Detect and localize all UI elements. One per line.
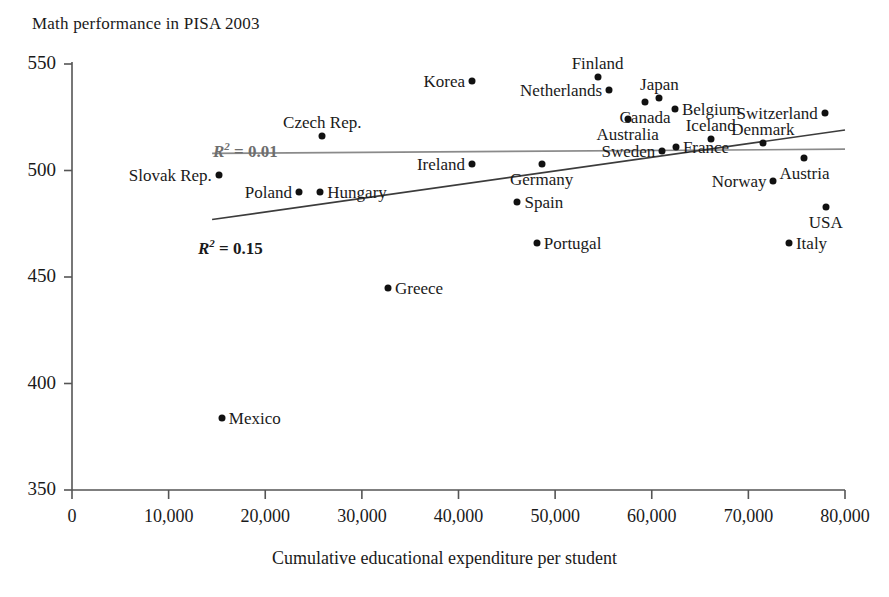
x-axis-tick-label: 10,000 xyxy=(144,506,194,527)
data-point xyxy=(469,161,476,168)
data-point-label: Iceland xyxy=(686,116,736,133)
y-axis-tick-label: 550 xyxy=(0,52,56,74)
data-point xyxy=(656,95,663,102)
data-point xyxy=(218,414,225,421)
data-point xyxy=(384,284,391,291)
x-axis-tick-label: 40,000 xyxy=(434,506,484,527)
r2-upper: R2 = 0.01 xyxy=(213,141,278,160)
data-point-label: USA xyxy=(809,213,843,230)
data-point xyxy=(469,78,476,85)
data-point-label: Italy xyxy=(796,234,827,251)
data-point xyxy=(215,171,222,178)
data-point-label: Austria xyxy=(779,164,829,181)
data-point xyxy=(514,199,521,206)
x-axis-tick-label: 30,000 xyxy=(337,506,387,527)
data-point-label: Japan xyxy=(640,76,679,93)
x-axis-tick-label: 0 xyxy=(68,506,77,527)
data-point-label: Spain xyxy=(524,194,563,211)
r2-lower: R2 = 0.15 xyxy=(198,238,263,257)
data-point-label: Ireland xyxy=(417,156,465,173)
data-point-label: Korea xyxy=(423,73,465,90)
data-point-label: Germany xyxy=(510,171,573,188)
chart-page: Math performance in PISA 2003 3504004505… xyxy=(0,0,889,597)
data-point xyxy=(821,109,828,116)
data-point-label: Poland xyxy=(245,183,292,200)
y-axis-tick-label: 500 xyxy=(0,159,56,181)
data-point xyxy=(759,139,766,146)
r2-lower-value: = 0.15 xyxy=(215,239,263,258)
data-point-label: Denmark xyxy=(731,120,794,137)
data-point-label: Norway xyxy=(712,173,767,190)
data-point xyxy=(671,105,678,112)
data-point xyxy=(538,161,545,168)
data-point-label: Sweden xyxy=(602,143,656,160)
data-point xyxy=(785,239,792,246)
x-axis-tick-label: 50,000 xyxy=(530,506,580,527)
x-axis-title: Cumulative educational expenditure per s… xyxy=(0,548,889,569)
plot-area: 350400450500550 010,00020,00030,00040,00… xyxy=(0,0,889,597)
data-point-label: Netherlands xyxy=(520,81,602,98)
data-point xyxy=(296,188,303,195)
data-point-label: Mexico xyxy=(229,409,281,426)
data-point-label: Hungary xyxy=(327,183,386,200)
data-point-label: Switzerland xyxy=(737,104,818,121)
x-axis-tick-label: 80,000 xyxy=(820,506,870,527)
data-point-label: Slovak Rep. xyxy=(129,166,212,183)
x-axis-tick-label: 60,000 xyxy=(627,506,677,527)
data-point-label: Greece xyxy=(395,279,443,296)
x-axis-tick-label: 20,000 xyxy=(241,506,291,527)
data-point-label: Czech Rep. xyxy=(283,114,361,131)
data-point-label: Australia xyxy=(596,126,658,143)
data-point xyxy=(659,148,666,155)
data-point xyxy=(672,144,679,151)
data-point xyxy=(319,133,326,140)
data-point xyxy=(641,99,648,106)
data-point xyxy=(317,188,324,195)
y-axis-tick-label: 450 xyxy=(0,265,56,287)
data-point-label: Finland xyxy=(572,54,624,71)
data-point-label: France xyxy=(683,139,729,156)
data-point xyxy=(606,86,613,93)
r2-lower-symbol: R xyxy=(198,239,209,258)
y-axis-tick-label: 400 xyxy=(0,372,56,394)
data-point-label: Portugal xyxy=(544,234,602,251)
r2-upper-symbol: R xyxy=(213,142,224,161)
data-point xyxy=(533,239,540,246)
data-point xyxy=(801,154,808,161)
y-axis-tick-label: 350 xyxy=(0,478,56,500)
x-axis-tick-label: 70,000 xyxy=(724,506,774,527)
data-point-label: Canada xyxy=(619,109,670,126)
flat-trendline xyxy=(212,149,845,153)
data-point xyxy=(822,203,829,210)
r2-upper-value: = 0.01 xyxy=(230,142,278,161)
data-point xyxy=(770,178,777,185)
